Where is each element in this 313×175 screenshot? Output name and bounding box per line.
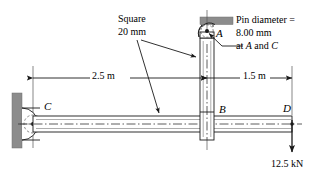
point-label-a: A bbox=[216, 27, 223, 40]
pin-line3-point-c: C bbox=[271, 40, 278, 51]
pin-diameter-line1: Pin diameter = bbox=[236, 14, 295, 26]
top-support-block bbox=[200, 17, 233, 25]
square-label-line1: Square bbox=[118, 13, 146, 25]
point-label-c: C bbox=[44, 100, 51, 113]
vertical-member bbox=[200, 32, 214, 140]
dimension-label-left: 2.5 m bbox=[92, 70, 115, 82]
pin-diameter-line3: at A and C bbox=[236, 40, 278, 52]
leader-square-to-horizontal-beam bbox=[137, 40, 159, 113]
load-label: 12.5 kN bbox=[271, 158, 303, 170]
point-label-b: B bbox=[219, 103, 226, 116]
leader-square-to-vertical-member bbox=[141, 40, 196, 57]
pin-line3-conjunction: and bbox=[252, 40, 271, 51]
point-label-d: D bbox=[283, 102, 291, 115]
pin-line3-prefix: at bbox=[236, 40, 246, 51]
square-label-line2: 20 mm bbox=[118, 26, 146, 38]
wall-support-c bbox=[12, 93, 22, 148]
pin-diameter-line2: 8.00 mm bbox=[236, 27, 272, 39]
dimension-label-right: 1.5 m bbox=[243, 70, 266, 82]
load-arrow bbox=[290, 120, 294, 152]
engineering-diagram: Square 20 mm Pin diameter = 8.00 mm at A… bbox=[0, 0, 313, 175]
horizontal-beam bbox=[18, 116, 302, 132]
